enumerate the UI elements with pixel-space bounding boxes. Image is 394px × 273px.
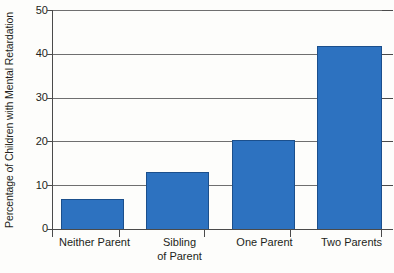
y-tick-label-0: 0 — [24, 223, 48, 234]
bar-chart: Percentage of Children with Mental Retar… — [0, 0, 394, 273]
y-tick-label-10: 10 — [24, 180, 48, 191]
y-axis-tick-labels: 50 40 30 20 10 0 — [18, 0, 48, 273]
y-tick-mark-right-20 — [382, 141, 393, 142]
y-tick-label-40: 40 — [24, 48, 48, 59]
y-tick-mark-right-30 — [382, 98, 393, 99]
bar-two-parents[interactable] — [317, 46, 382, 229]
y-tick-label-50: 50 — [24, 5, 48, 16]
plot-area — [52, 10, 382, 229]
y-tick-mark-20 — [47, 141, 53, 142]
x-axis-labels: Neither Parent Sibling of Parent One Par… — [52, 236, 382, 273]
gridline-50 — [52, 10, 382, 11]
bar-neither-parent[interactable] — [61, 199, 124, 229]
y-tick-mark-30 — [47, 98, 53, 99]
y-tick-label-30: 30 — [24, 92, 48, 103]
y-tick-label-20: 20 — [24, 136, 48, 147]
y-tick-mark-40 — [47, 54, 53, 55]
y-axis-line — [52, 10, 53, 229]
y-tick-mark-50 — [47, 10, 53, 11]
y-axis-title: Percentage of Children with Mental Retar… — [0, 0, 18, 240]
y-tick-mark-right-40 — [382, 54, 393, 55]
bar-one-parent[interactable] — [232, 140, 295, 229]
y-tick-mark-right-50 — [382, 10, 393, 11]
y-tick-mark-10 — [47, 185, 53, 186]
y-tick-mark-right-10 — [382, 185, 393, 186]
y-tick-mark-right-0 — [382, 229, 393, 230]
bar-sibling-of-parent[interactable] — [146, 172, 209, 229]
x-label-two-parents: Two Parents — [299, 236, 394, 250]
x-axis-line — [52, 229, 382, 230]
